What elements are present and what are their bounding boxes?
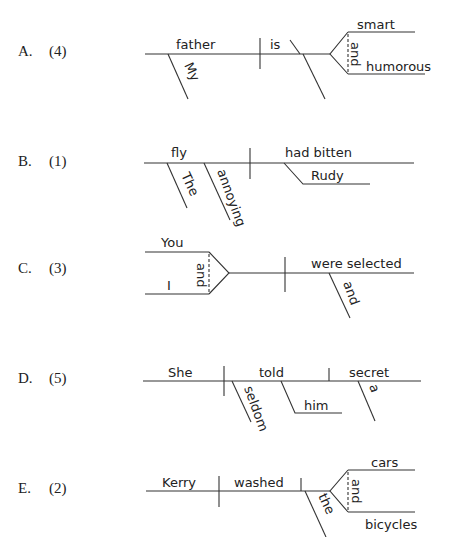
a-complement-bottom: humorous bbox=[366, 59, 431, 74]
e-subject: Kerry bbox=[162, 475, 196, 490]
diagram-b: fly had bitten Rudy The annoying bbox=[144, 145, 414, 229]
a-subject: father bbox=[176, 37, 216, 52]
b-verb: had bitten bbox=[285, 145, 352, 160]
c-subject-top: You bbox=[160, 235, 183, 250]
d-verb: told bbox=[259, 365, 284, 380]
d-indirect-object: him bbox=[304, 398, 329, 413]
a-subject-modifier: My bbox=[181, 60, 203, 84]
c-verb: were selected bbox=[311, 256, 402, 271]
d-article: a bbox=[366, 382, 383, 395]
d-direct-object: secret bbox=[349, 365, 389, 380]
e-conjunction: and bbox=[349, 479, 364, 503]
d-subject: She bbox=[168, 365, 193, 380]
c-verb-modifier: and bbox=[340, 279, 362, 307]
diagram-e: Kerry washed cars bicycles and the bbox=[146, 455, 417, 537]
a-conjunction: and bbox=[348, 42, 363, 66]
e-object-bottom: bicycles bbox=[365, 517, 417, 532]
sentence-diagrams: father is smart humorous and My fly had … bbox=[0, 0, 460, 537]
diagram-c: You I and were selected and bbox=[145, 235, 414, 318]
a-complement-top: smart bbox=[357, 17, 395, 32]
b-object: Rudy bbox=[311, 168, 344, 183]
b-subject: fly bbox=[171, 145, 187, 160]
e-article: the bbox=[315, 491, 338, 517]
c-conjunction: and bbox=[194, 263, 209, 287]
diagram-a: father is smart humorous and My bbox=[145, 17, 431, 99]
diagram-d: She told secret him seldom a bbox=[143, 365, 421, 433]
a-verb: is bbox=[270, 37, 281, 52]
c-subject-bottom: I bbox=[167, 278, 171, 293]
b-modifier-1: The bbox=[178, 169, 202, 198]
e-object-top: cars bbox=[371, 455, 398, 470]
d-adverb: seldom bbox=[241, 384, 271, 434]
e-verb: washed bbox=[234, 475, 284, 490]
